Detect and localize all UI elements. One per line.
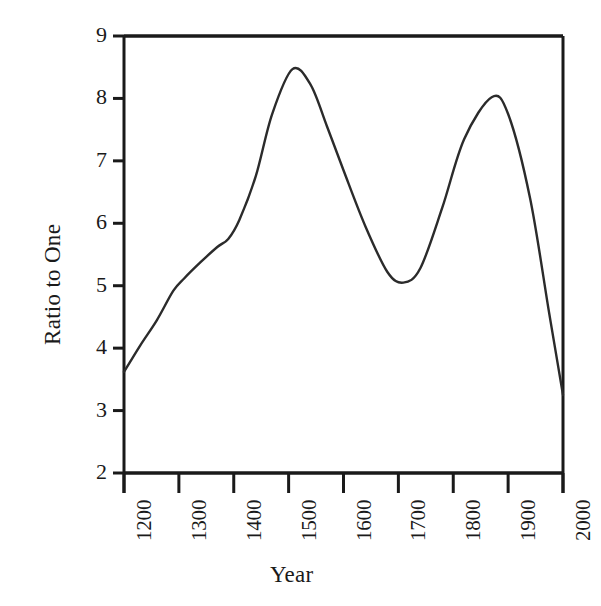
- x-tick-label: 1300: [187, 500, 212, 541]
- x-tick-label: 1400: [242, 500, 267, 541]
- y-axis-title: Ratio to One: [40, 224, 66, 345]
- y-tick-label: 5: [96, 272, 107, 298]
- x-tick-label: 1900: [516, 500, 541, 541]
- y-tick-label: 7: [96, 147, 107, 173]
- y-tick-label: 9: [96, 22, 107, 48]
- y-tick-label: 3: [96, 397, 107, 423]
- y-tick-label: 4: [96, 334, 107, 360]
- y-tick-label: 2: [96, 459, 107, 485]
- x-tick-label: 1600: [352, 500, 377, 541]
- x-tick-label: 1800: [461, 500, 486, 541]
- chart-figure: Ratio to One Year 23456789 1200130014001…: [0, 0, 601, 606]
- y-tick-label: 6: [96, 209, 107, 235]
- data-series-line: [124, 68, 563, 395]
- x-tick-label: 2000: [571, 500, 596, 541]
- x-tick-label: 1700: [406, 500, 431, 541]
- x-tick-label: 1500: [297, 500, 322, 541]
- x-tick-label: 1200: [132, 500, 157, 541]
- y-tick-label: 8: [96, 84, 107, 110]
- x-axis-title: Year: [270, 562, 314, 588]
